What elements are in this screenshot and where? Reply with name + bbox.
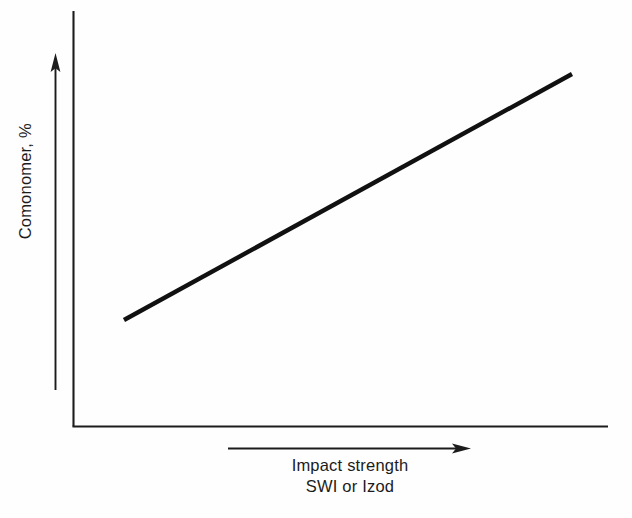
figure-root: Comonomer, % Impact strength SWI or Izod	[0, 0, 632, 518]
chart-background	[0, 0, 632, 518]
x-axis-label-line1: Impact strength	[292, 456, 409, 474]
y-axis-label: Comonomer, %	[0, 0, 40, 518]
x-axis-label: Impact strength SWI or Izod	[166, 455, 534, 496]
x-axis-label-line2: SWI or Izod	[166, 476, 534, 497]
y-axis-label-text: Comonomer, %	[17, 123, 34, 239]
chart-canvas	[0, 0, 632, 518]
